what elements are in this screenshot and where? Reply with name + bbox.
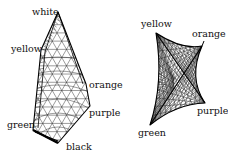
left-label-orange: orange [89, 79, 123, 90]
left-label-purple: purple [89, 107, 121, 118]
right-label-green: green [138, 127, 166, 138]
right-label-purple: purple [197, 105, 228, 116]
right-label-yellow: yellow [140, 18, 172, 29]
left-label-yellow: yellow [10, 43, 42, 54]
left-label-white: white [32, 6, 59, 17]
left-label-green: green [7, 119, 35, 130]
mesh-diagram: whiteyellowgreenblackpurpleorangeyellowo… [0, 0, 228, 159]
left-label-black: black [66, 141, 92, 152]
right-label-orange: orange [192, 28, 226, 39]
